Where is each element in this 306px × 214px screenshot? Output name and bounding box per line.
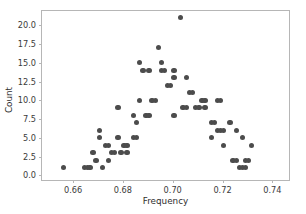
- data-point: [153, 98, 158, 103]
- data-point: [240, 135, 245, 140]
- x-tick-label: 0.66: [64, 185, 82, 195]
- data-point: [146, 113, 151, 118]
- data-point: [184, 75, 189, 80]
- data-point: [124, 150, 129, 155]
- x-tick-mark: [123, 180, 124, 183]
- x-tick-label: 0.72: [213, 185, 231, 195]
- data-point: [218, 98, 223, 103]
- data-point: [118, 150, 123, 155]
- data-point: [184, 105, 189, 110]
- x-axis-label: Frequency: [41, 196, 290, 206]
- data-point: [115, 135, 120, 140]
- y-tick-label: 7.5: [23, 114, 36, 124]
- y-tick-label: 15.0: [18, 58, 36, 68]
- y-tick-label: 10.0: [18, 95, 36, 105]
- y-tick-label: 17.5: [18, 39, 36, 49]
- data-point: [137, 98, 142, 103]
- data-point: [221, 143, 226, 148]
- data-point: [106, 143, 111, 148]
- data-point: [134, 120, 139, 125]
- data-point: [112, 150, 117, 155]
- y-tick-mark: [39, 138, 42, 139]
- data-point: [168, 83, 173, 88]
- data-point: [134, 135, 139, 140]
- data-point: [97, 128, 102, 133]
- data-point: [159, 60, 164, 65]
- data-point: [124, 143, 129, 148]
- y-tick-label: 12.5: [18, 77, 36, 87]
- data-point: [146, 68, 151, 73]
- y-tick-mark: [39, 44, 42, 45]
- data-point: [246, 158, 251, 163]
- y-tick-mark: [39, 63, 42, 64]
- data-point: [212, 120, 217, 125]
- data-point: [140, 68, 145, 73]
- y-tick-label: 2.5: [23, 152, 36, 162]
- data-point: [234, 128, 239, 133]
- data-point: [97, 135, 102, 140]
- data-point: [234, 158, 239, 163]
- data-point: [243, 165, 248, 170]
- x-tick-label: 0.68: [114, 185, 132, 195]
- plot-area: 0.660.680.700.720.74 0.02.55.07.510.012.…: [41, 10, 290, 181]
- data-point: [171, 113, 176, 118]
- x-tick-mark: [272, 180, 273, 183]
- data-point: [196, 105, 201, 110]
- y-tick-label: 0.0: [23, 170, 36, 180]
- data-point: [171, 68, 176, 73]
- data-point: [131, 113, 136, 118]
- y-tick-label: 20.0: [18, 20, 36, 30]
- data-point: [115, 105, 120, 110]
- data-point: [156, 45, 161, 50]
- y-tick-mark: [39, 82, 42, 83]
- data-point: [190, 90, 195, 95]
- scatter-chart-figure: 0.660.680.700.720.74 0.02.55.07.510.012.…: [0, 0, 306, 214]
- data-point: [221, 128, 226, 133]
- y-tick-mark: [39, 119, 42, 120]
- y-tick-mark: [39, 175, 42, 176]
- data-point: [178, 15, 183, 20]
- y-tick-mark: [39, 157, 42, 158]
- data-point: [137, 60, 142, 65]
- data-point: [162, 68, 167, 73]
- y-tick-mark: [39, 100, 42, 101]
- y-tick-label: 5.0: [23, 133, 36, 143]
- data-point: [93, 158, 98, 163]
- x-tick-mark: [73, 180, 74, 183]
- data-point: [171, 75, 176, 80]
- data-point: [202, 105, 207, 110]
- data-point: [87, 165, 92, 170]
- data-point: [209, 135, 214, 140]
- x-tick-label: 0.70: [164, 185, 182, 195]
- data-point: [90, 150, 95, 155]
- x-tick-mark: [173, 180, 174, 183]
- scatter-points-layer: [42, 11, 289, 180]
- y-axis-label: Count: [4, 70, 14, 130]
- x-tick-label: 0.74: [263, 185, 281, 195]
- data-point: [106, 158, 111, 163]
- data-point: [100, 165, 105, 170]
- data-point: [249, 143, 254, 148]
- data-point: [61, 165, 66, 170]
- data-point: [202, 98, 207, 103]
- data-point: [227, 120, 232, 125]
- x-tick-mark: [223, 180, 224, 183]
- y-tick-mark: [39, 25, 42, 26]
